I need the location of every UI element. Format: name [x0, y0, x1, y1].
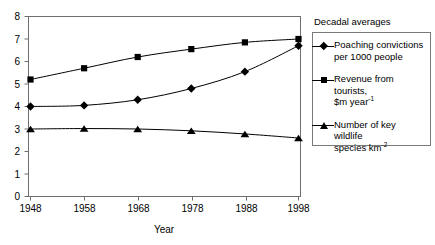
y-tick-label: 2: [14, 146, 20, 157]
x-tick-label: 1988: [235, 203, 258, 214]
y-tick-label: 6: [14, 56, 20, 67]
y-axis-tick-labels: 8 7 6 5 4 3 2 1 0: [14, 11, 20, 202]
data-point-marker: [242, 39, 248, 45]
x-tick-label: 1978: [181, 203, 204, 214]
legend-label: Revenue from tourists, $m year-1: [334, 73, 426, 108]
plot-frame: [29, 17, 301, 197]
legend-entry-poaching-convictions: Poaching convictions per 1000 people: [315, 39, 426, 62]
x-axis-ticks: [31, 197, 299, 201]
x-axis-tick-labels: 1948 1958 1968 1978 1988 1998: [19, 203, 310, 214]
legend-heading: Decadal averages: [314, 16, 432, 28]
legend-label: Poaching convictions per 1000 people: [334, 39, 423, 62]
y-tick-label: 4: [14, 101, 20, 112]
legend-label: Number of key wildlife species km-2: [334, 119, 426, 154]
y-tick-label: 5: [14, 79, 20, 90]
legend-key-diamond-icon: [312, 40, 334, 52]
x-tick-label: 1948: [19, 203, 42, 214]
legend-label-superscript: -1: [368, 95, 374, 102]
y-tick-label: 3: [14, 124, 20, 135]
legend-key-triangle-icon: [312, 120, 334, 132]
y-tick-label: 7: [14, 34, 20, 45]
data-point-marker: [81, 65, 87, 71]
y-tick-label: 1: [14, 169, 20, 180]
chart-container: 8 7 6 5 4 3 2 1 0 1948 1958 1968 1978 19…: [0, 0, 435, 245]
data-point-marker: [188, 46, 194, 52]
x-tick-label: 1958: [73, 203, 96, 214]
legend-key-square-icon: [312, 74, 334, 86]
legend-label-line1: Revenue from tourists,: [334, 73, 394, 96]
x-tick-label: 1998: [287, 203, 310, 214]
legend-entry-revenue-from-tourists: Revenue from tourists, $m year-1: [315, 73, 426, 108]
legend-label-line2: $m year: [334, 96, 368, 107]
x-tick-label: 1968: [127, 203, 150, 214]
legend-box: Poaching convictions per 1000 people Rev…: [312, 32, 431, 146]
data-point-marker: [295, 36, 301, 42]
chart-legend: Decadal averages Poaching convictions pe…: [312, 16, 432, 146]
data-point-marker: [27, 76, 33, 82]
legend-label-line2: species km: [334, 142, 382, 153]
x-axis-title: Year: [154, 224, 175, 235]
legend-label-line2: per 1000 people: [334, 51, 403, 62]
legend-entry-key-wildlife-species: Number of key wildlife species km-2: [315, 119, 426, 154]
y-tick-label: 8: [14, 11, 20, 22]
legend-label-line1: Number of key wildlife: [334, 119, 396, 142]
data-point-marker: [135, 54, 141, 60]
legend-label-line1: Poaching convictions: [334, 39, 423, 50]
legend-label-superscript: -2: [382, 140, 388, 147]
y-tick-label: 0: [14, 191, 20, 202]
